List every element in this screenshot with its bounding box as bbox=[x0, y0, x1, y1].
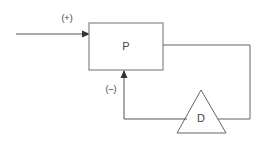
feedback-sign-label: (–) bbox=[106, 84, 117, 94]
feedback-diagram: (+) P D (–) bbox=[0, 0, 261, 144]
block-d-label: D bbox=[197, 112, 205, 124]
input-sign-label: (+) bbox=[61, 13, 72, 23]
feedback-path-line bbox=[124, 71, 187, 119]
block-p-label: P bbox=[122, 40, 129, 52]
